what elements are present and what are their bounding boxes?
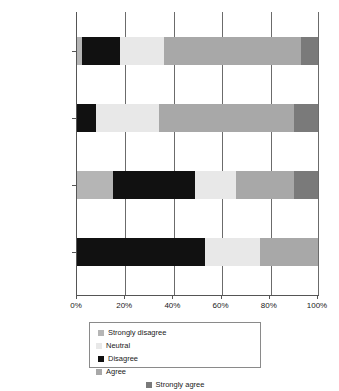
legend-swatch-icon [96,343,102,349]
y-axis-tick-mark [72,118,76,119]
x-axis-tick-label: 60% [213,301,229,310]
legend-label: Strongly disagree [108,327,166,339]
legend-item: Agree [94,365,162,378]
bar-segment [301,37,318,65]
legend-item: Strongly agree [94,378,256,391]
bar-row [77,104,318,132]
bar-segment [113,171,195,199]
bar-row [77,238,318,266]
x-axis-tick-label: 0% [70,301,82,310]
bar-segment [294,171,318,199]
x-axis-tick-mark [172,295,173,299]
x-axis-tick-label: 100% [307,301,327,310]
legend-swatch-icon [98,356,104,362]
stacked-bar [77,37,318,65]
x-axis-tick-label: 20% [116,301,132,310]
x-axis-tick-mark [124,295,125,299]
bar-segment [205,238,260,266]
y-axis-tick-mark [72,185,76,186]
legend-label: Neutral [106,340,130,352]
legend-item: Disagree [94,352,196,365]
x-axis-tick-mark [76,295,77,299]
bar-segment [96,104,159,132]
y-axis-tick-mark [72,252,76,253]
bar-segment [77,171,113,199]
stacked-bar [77,171,318,199]
y-axis-tick-mark [72,51,76,52]
bar-row [77,37,318,65]
x-axis-tick-mark [317,295,318,299]
plot-area [76,12,318,295]
legend-swatch-icon [96,369,102,375]
bar-segment [236,171,294,199]
bar-segment [77,104,96,132]
chart-legend: Strongly disagreeNeutralDisagreeAgreeStr… [89,322,261,368]
bar-segment [82,37,121,65]
bar-segment [260,238,318,266]
legend-item: Strongly disagree [94,326,196,339]
stacked-bar [77,238,318,266]
legend-label: Agree [106,366,126,378]
bar-segment [195,171,236,199]
legend-swatch-icon [98,330,104,336]
stacked-bar [77,104,318,132]
gridline-100 [318,12,319,295]
legend-label: Disagree [108,353,138,365]
x-axis-tick-label: 40% [164,301,180,310]
x-axis-line [76,295,319,296]
legend-item: Neutral [94,339,162,352]
bar-segment [294,104,318,132]
bar-segment [159,104,294,132]
bar-segment [164,37,301,65]
x-axis-tick-label: 80% [261,301,277,310]
bar-row [77,171,318,199]
legend-swatch-icon [146,382,152,388]
bar-segment [120,37,163,65]
x-axis-tick-mark [269,295,270,299]
x-axis-tick-mark [221,295,222,299]
legend-label: Strongly agree [156,379,205,391]
bar-segment [77,238,205,266]
